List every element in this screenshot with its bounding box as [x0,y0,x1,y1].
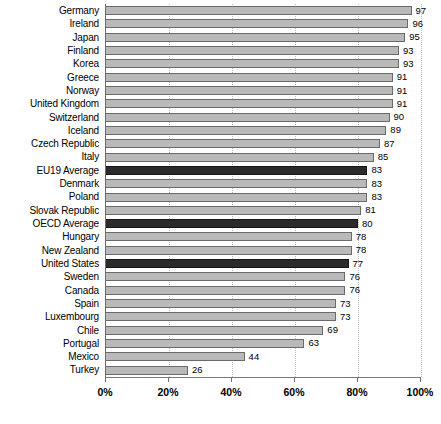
category-label: Greece [0,71,102,84]
bar [106,193,367,202]
bar-value-label: 83 [371,164,382,176]
category-label: Korea [0,57,102,70]
category-label: Spain [0,297,102,310]
category-label: Denmark [0,177,102,190]
bar [106,139,380,148]
bar [106,179,367,188]
bar [106,326,323,335]
bar-value-label: 91 [397,85,408,97]
bar-row: 91 [106,97,421,110]
bar-value-label: 77 [353,258,364,270]
bar-row: 96 [106,17,421,30]
bar-value-label: 95 [409,31,420,43]
category-label: Poland [0,190,102,203]
bar-row: 76 [106,284,421,297]
category-label: Ireland [0,17,102,30]
x-axis-tick-label: 80% [346,386,367,398]
bar-row: 63 [106,337,421,350]
bar [106,339,304,348]
bar [106,126,386,135]
bar [106,232,352,241]
gridline [421,4,422,377]
bar-row: 95 [106,31,421,44]
bar-chart: GermanyIrelandJapanFinlandKoreaGreeceNor… [0,0,441,424]
x-axis-tick [420,377,421,382]
bar [106,19,408,28]
bar-value-label: 80 [362,218,373,230]
bar-row: 83 [106,177,421,190]
bar [106,246,352,255]
x-axis-tick [357,377,358,382]
bar-value-label: 93 [403,45,414,57]
bar-row: 83 [106,190,421,203]
bar-value-label: 83 [371,191,382,203]
x-axis-tick-label: 40% [220,386,241,398]
bar-value-label: 63 [308,337,319,349]
bar-value-label: 26 [192,364,203,376]
bar [106,46,399,55]
category-label: Turkey [0,363,102,376]
category-label: EU19 Average [0,164,102,177]
bar [106,166,367,175]
bar-row: 91 [106,84,421,97]
bar-value-label: 73 [340,311,351,323]
category-axis-labels: GermanyIrelandJapanFinlandKoreaGreeceNor… [0,4,102,377]
bar-row: 44 [106,350,421,363]
bar-row: 85 [106,150,421,163]
x-axis-tick-label: 0% [97,386,112,398]
bar [106,59,399,68]
bar [106,272,345,281]
bar-value-label: 91 [397,98,408,110]
bar-value-label: 44 [249,351,260,363]
category-label: United Kingdom [0,97,102,110]
bar-row: 93 [106,57,421,70]
bar [106,312,336,321]
bar-row: 81 [106,204,421,217]
bar-value-label: 97 [416,5,427,17]
category-label: Sweden [0,270,102,283]
bar-value-label: 78 [356,231,367,243]
bar-row: 26 [106,363,421,376]
category-label: Czech Republic [0,137,102,150]
bar-value-label: 69 [327,324,338,336]
x-axis-tick [294,377,295,382]
category-label: Germany [0,4,102,17]
category-label: Luxembourg [0,310,102,323]
category-label: Italy [0,150,102,163]
x-axis-tick-label: 20% [157,386,178,398]
category-label: Canada [0,284,102,297]
category-label: Slovak Republic [0,204,102,217]
bar-value-label: 81 [365,204,376,216]
bar [106,33,405,42]
category-label: Finland [0,44,102,57]
bar-value-label: 89 [390,124,401,136]
bar [106,86,393,95]
plot-area: 9796959393919191908987858383838180787877… [105,4,421,377]
bar-row: 87 [106,137,421,150]
x-axis-ticks [105,377,421,383]
bar-row: 89 [106,124,421,137]
bar-value-label: 93 [403,58,414,70]
bar-row: 97 [106,4,421,17]
x-axis-tick [231,377,232,382]
bar-value-label: 90 [394,111,405,123]
bar [106,366,188,375]
bar-row: 93 [106,44,421,57]
bar-row: 73 [106,310,421,323]
bar [106,73,393,82]
category-label: Japan [0,31,102,44]
bar [106,352,245,361]
bar-row: 69 [106,324,421,337]
bar-row: 77 [106,257,421,270]
bar [106,206,361,215]
category-label: New Zealand [0,244,102,257]
bar [106,259,349,268]
x-axis-tick-label: 100% [407,386,434,398]
bar [106,153,374,162]
bar-row: 80 [106,217,421,230]
bar-row: 78 [106,230,421,243]
bar [106,286,345,295]
category-label: OECD Average [0,217,102,230]
category-label: Mexico [0,350,102,363]
bar [106,299,336,308]
